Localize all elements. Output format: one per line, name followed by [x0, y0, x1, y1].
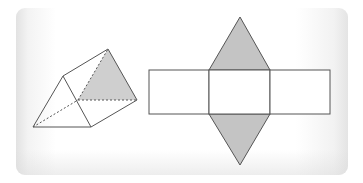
- net-right-rectangle: [270, 70, 330, 114]
- prism-net: [149, 17, 330, 165]
- net-middle-rectangle: [209, 70, 270, 114]
- hidden-edge: [33, 100, 78, 127]
- net-top-triangle: [209, 17, 270, 70]
- prism-back-face-shaded: [78, 49, 137, 100]
- prism-front-face: [33, 76, 91, 127]
- prism-net-diagram: [0, 0, 363, 183]
- prism-edge: [91, 100, 137, 127]
- triangular-prism: [33, 49, 137, 127]
- net-left-rectangle: [149, 70, 209, 114]
- net-bottom-triangle: [209, 114, 270, 165]
